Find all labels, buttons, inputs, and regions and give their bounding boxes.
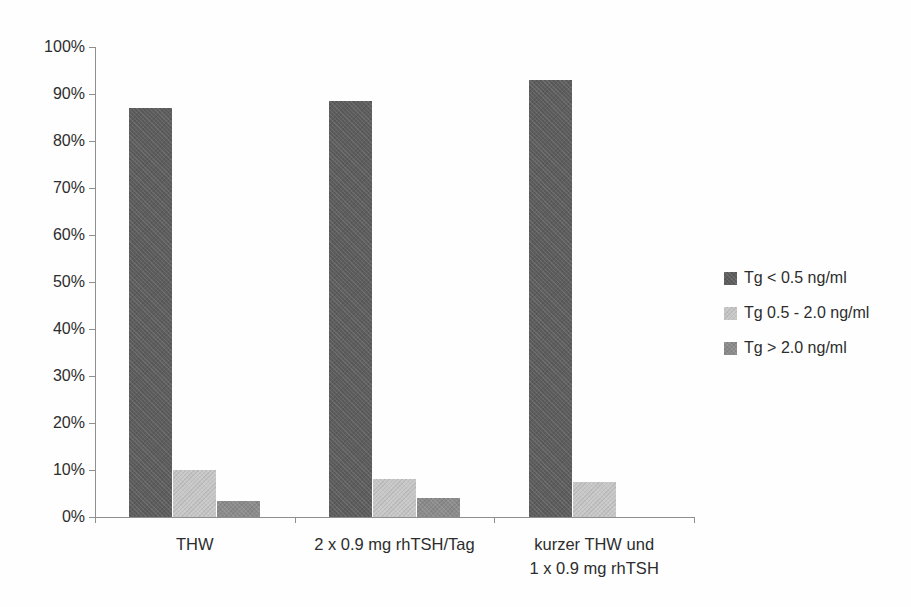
y-axis-label: 80% <box>5 133 85 149</box>
legend-label: Tg < 0.5 ng/ml <box>744 268 847 288</box>
category-label-line: THW <box>95 532 295 556</box>
y-axis-tick <box>89 235 95 236</box>
x-axis-tick <box>494 517 495 523</box>
y-axis-tick <box>89 376 95 377</box>
legend-label: Tg 0.5 - 2.0 ng/ml <box>744 303 869 323</box>
y-axis-label: 20% <box>5 415 85 431</box>
chart: 100%90%80%70%60%50%40%30%20%10%0%THW2 x … <box>0 0 911 607</box>
bar-2-cat-3 <box>573 482 616 517</box>
x-axis-tick <box>295 517 296 523</box>
legend-swatch-icon <box>724 307 737 320</box>
y-axis-tick <box>89 94 95 95</box>
y-axis-line <box>95 47 96 522</box>
category-label-line: 2 x 0.9 mg rhTSH/Tag <box>295 532 495 556</box>
bar-3-cat-1 <box>217 501 260 517</box>
y-axis-tick <box>89 282 95 283</box>
x-axis-tick <box>95 517 96 523</box>
legend-item: Tg < 0.5 ng/ml <box>724 268 847 288</box>
legend-item: Tg 0.5 - 2.0 ng/ml <box>724 303 869 323</box>
y-axis-tick <box>89 188 95 189</box>
bar-1-cat-1 <box>129 108 172 517</box>
y-axis-tick <box>89 329 95 330</box>
y-axis-label: 10% <box>5 462 85 478</box>
y-axis-label: 70% <box>5 180 85 196</box>
category-label: 2 x 0.9 mg rhTSH/Tag <box>295 532 495 556</box>
y-axis-label: 0% <box>5 509 85 525</box>
y-axis-label: 60% <box>5 227 85 243</box>
y-axis-label: 100% <box>5 39 85 55</box>
category-label-line: 1 x 0.9 mg rhTSH <box>494 556 694 580</box>
bar-1-cat-3 <box>529 80 572 517</box>
y-axis-label: 90% <box>5 86 85 102</box>
y-axis-tick <box>89 141 95 142</box>
category-label-line: kurzer THW und <box>494 532 694 556</box>
y-axis-tick <box>89 423 95 424</box>
category-label: THW <box>95 532 295 556</box>
y-axis-label: 30% <box>5 368 85 384</box>
category-label: kurzer THW und1 x 0.9 mg rhTSH <box>494 532 694 580</box>
legend-item: Tg > 2.0 ng/ml <box>724 338 847 358</box>
x-axis-line <box>95 517 694 518</box>
legend-swatch-icon <box>724 272 737 285</box>
legend-label: Tg > 2.0 ng/ml <box>744 338 847 358</box>
y-axis-label: 50% <box>5 274 85 290</box>
x-axis-tick <box>694 517 695 523</box>
bar-3-cat-2 <box>417 498 460 517</box>
bar-2-cat-2 <box>373 479 416 517</box>
y-axis-tick <box>89 47 95 48</box>
bar-2-cat-1 <box>173 470 216 517</box>
y-axis-label: 40% <box>5 321 85 337</box>
bar-1-cat-2 <box>329 101 372 517</box>
y-axis-tick <box>89 470 95 471</box>
legend-swatch-icon <box>724 342 737 355</box>
